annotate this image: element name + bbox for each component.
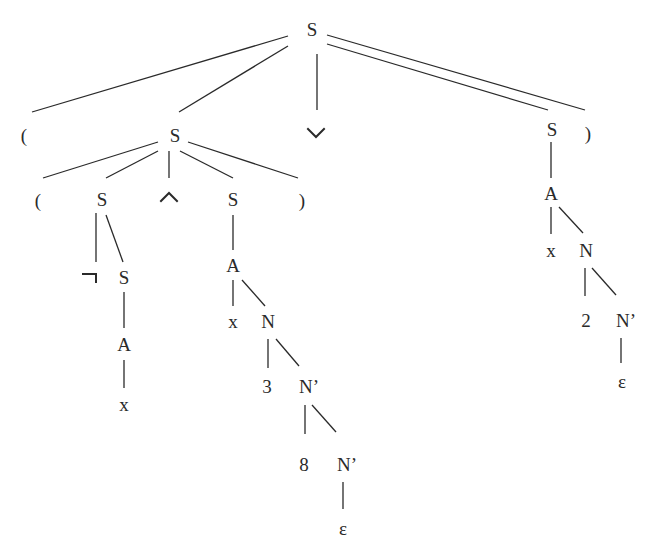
tree-node-label: )	[299, 190, 305, 212]
tree-node-label: (	[35, 190, 41, 212]
tree-edge	[188, 142, 298, 178]
tree-node-label: S	[307, 19, 318, 40]
tree-node-label: S	[97, 189, 108, 210]
tree-node-label: x	[228, 311, 238, 332]
tree-edge	[32, 36, 288, 112]
tree-edge	[327, 44, 548, 110]
parse-tree: S(SS)(SS)SAxAxN3N’8N’εAxN2N’ε	[0, 0, 656, 553]
or-symbol-node	[308, 129, 324, 137]
tree-edge	[312, 405, 336, 432]
tree-node-label: S	[170, 125, 181, 146]
tree-nodes: S(SS)(SS)SAxAxN3N’8N’εAxN2N’ε	[21, 19, 636, 539]
tree-edge	[276, 339, 299, 366]
tree-node-label: x	[119, 394, 129, 415]
tree-node-label: S	[228, 189, 239, 210]
tree-node-label: S	[547, 119, 558, 140]
tree-node-label: N’	[337, 454, 357, 475]
tree-edge	[106, 215, 123, 262]
not-symbol-node	[83, 274, 96, 282]
tree-node-label: (	[21, 125, 27, 147]
tree-node-label: A	[544, 183, 558, 204]
tree-node-label: 3	[262, 376, 272, 397]
tree-edge	[180, 151, 233, 178]
and-symbol-node	[161, 193, 177, 201]
tree-node-label: 8	[299, 454, 309, 475]
tree-node-label: N	[579, 240, 593, 261]
tree-node-label: A	[226, 255, 240, 276]
tree-edge	[179, 46, 288, 112]
tree-node-label: N’	[299, 376, 319, 397]
tree-node-label: A	[117, 334, 131, 355]
tree-edge	[559, 207, 583, 233]
tree-node-label: ε	[339, 518, 347, 539]
tree-node-label: S	[119, 267, 130, 288]
tree-node-label: N	[261, 311, 275, 332]
tree-edge	[327, 35, 585, 110]
tree-node-label: 2	[581, 310, 591, 331]
tree-edge	[242, 280, 265, 306]
tree-edge	[106, 151, 158, 178]
tree-node-label: )	[585, 123, 591, 145]
tree-node-label: x	[546, 240, 556, 261]
tree-node-label: ε	[618, 371, 626, 392]
tree-node-label: N’	[616, 310, 636, 331]
tree-edge	[592, 268, 616, 295]
